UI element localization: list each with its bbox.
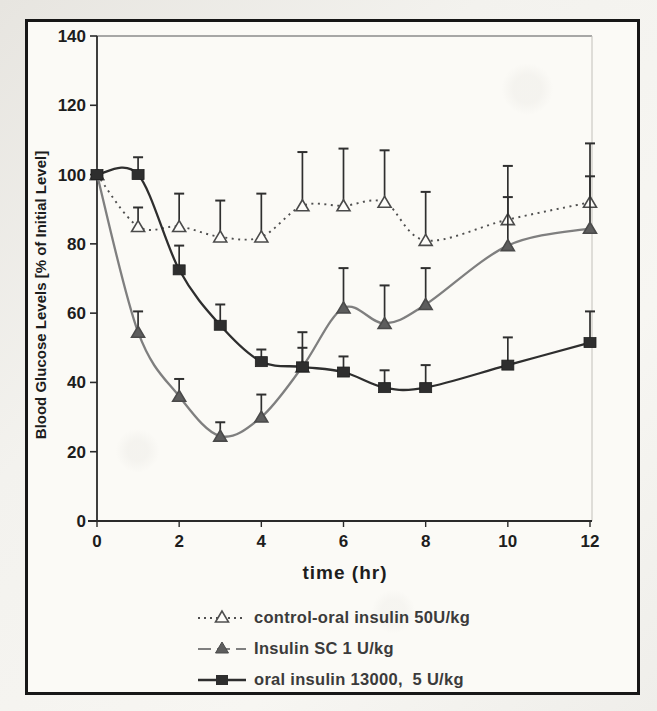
data-point-marker [173,265,185,275]
data-point-marker [91,170,103,180]
legend-item-insulin-sc: Insulin SC 1 U/kg [198,637,470,659]
open-triangle-dotted-line-icon [198,609,246,625]
y-tick-label: 40 [67,373,86,392]
y-tick-label: 0 [77,512,86,531]
x-tick-label: 12 [581,532,600,551]
x-tick-label: 0 [92,532,101,551]
scanned-figure-page: 020406080100120140 024681012 Blood Gluco… [0,0,657,711]
data-point-marker [338,367,350,377]
filled-square-solid-line-icon [198,671,246,687]
data-point-marker [255,231,268,242]
y-tick-label: 140 [58,27,86,46]
data-point-marker [420,383,432,393]
data-point-marker [502,360,514,370]
data-point-marker [132,170,144,180]
x-axis-ticks: 024681012 [92,521,599,551]
y-tick-label: 20 [67,443,86,462]
x-tick-label: 2 [174,532,183,551]
legend-item-control: control-oral insulin 50U/kg [198,606,470,628]
chart-legend: control-oral insulin 50U/kg Insulin SC 1… [198,606,470,690]
x-tick-label: 4 [257,532,267,551]
data-point-marker [379,383,391,393]
legend-label-insulin-sc: Insulin SC 1 U/kg [254,639,394,658]
filled-triangle-gray-line-icon [198,640,246,656]
x-tick-label: 10 [498,532,517,551]
data-point-marker [296,362,308,372]
x-tick-label: 6 [339,532,348,551]
data-point-marker [214,320,226,330]
x-axis-title: time (hr) [303,562,388,583]
y-tick-label: 120 [58,96,86,115]
legend-item-oral-insulin: oral insulin 13000, 5 U/kg [198,668,470,690]
chart-canvas: 020406080100120140 024681012 Blood Gluco… [0,0,657,711]
data-point-marker [501,240,514,251]
series-open-triangle [91,143,597,245]
y-axis-ticks: 020406080100120140 [58,27,97,531]
data-point-marker [584,338,596,348]
data-point-marker [132,326,145,337]
legend-label-oral-insulin: oral insulin 13000, 5 U/kg [254,670,464,689]
data-point-marker [173,221,186,232]
legend-label-control: control-oral insulin 50U/kg [254,608,470,627]
data-point-marker [378,196,391,207]
x-tick-label: 8 [421,532,430,551]
y-tick-label: 100 [58,166,86,185]
y-tick-label: 80 [67,235,86,254]
data-point-marker [214,231,227,242]
series-layer [91,143,597,441]
data-point-marker [255,357,267,367]
data-point-marker [419,234,432,245]
y-tick-label: 60 [67,304,86,323]
y-axis-title: Blood Glucose Levels [% of Initial Level… [32,151,49,439]
data-point-marker [584,222,597,233]
